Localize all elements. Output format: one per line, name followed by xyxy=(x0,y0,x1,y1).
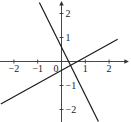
x-tick-label: −2 xyxy=(9,63,20,74)
y-tick-label: 2 xyxy=(66,8,71,19)
y-tick-label: −2 xyxy=(66,104,77,115)
x-tick-label: 2 xyxy=(107,63,112,74)
y-tick-label: −1 xyxy=(66,80,77,91)
y-tick-label: 1 xyxy=(66,32,71,43)
x-tick-label: 1 xyxy=(83,63,88,74)
x-tick-label: −1 xyxy=(32,63,43,74)
chart: −2−11221−1−20 xyxy=(0,0,131,122)
